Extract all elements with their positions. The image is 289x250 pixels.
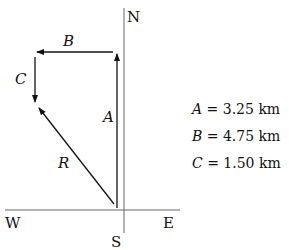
vector-diagram: N S W E A B C R A = 3.25 km B = 4.75 km … bbox=[0, 0, 289, 250]
equation-value: = 3.25 km bbox=[202, 101, 280, 117]
equation-c: C = 1.50 km bbox=[192, 155, 281, 171]
equation-a: A = 3.25 km bbox=[192, 101, 280, 117]
equation-var: C bbox=[192, 155, 203, 171]
west-label: W bbox=[5, 214, 21, 232]
vector-a-label: A bbox=[101, 108, 114, 126]
equation-b: B = 4.75 km bbox=[192, 128, 280, 144]
equation-var: A bbox=[192, 101, 202, 117]
equation-var: B bbox=[192, 128, 202, 144]
south-label: S bbox=[111, 233, 121, 250]
north-label: N bbox=[127, 8, 140, 26]
vector-b-label: B bbox=[62, 32, 74, 50]
vector-r-label: R bbox=[57, 154, 69, 172]
equation-value: = 1.50 km bbox=[203, 155, 281, 171]
east-label: E bbox=[163, 214, 174, 232]
vector-c-label: C bbox=[15, 70, 27, 88]
diagram-canvas: N S W E A B C R bbox=[0, 0, 289, 250]
equation-value: = 4.75 km bbox=[202, 128, 280, 144]
